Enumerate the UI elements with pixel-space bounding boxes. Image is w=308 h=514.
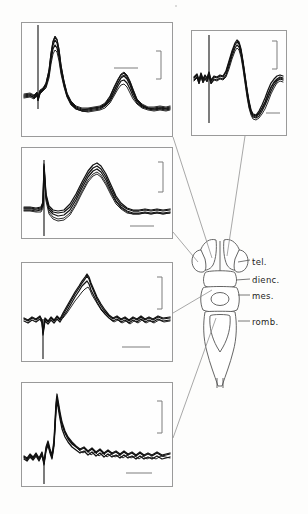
panel-mesencephalon [21, 262, 173, 362]
mesencephalon-ventricle [211, 293, 229, 306]
trace-plot-diencephalon-left [22, 148, 172, 238]
trace-group [24, 394, 170, 465]
region-label-telencephalon: tel. [252, 257, 267, 267]
diencephalon-outline [204, 271, 237, 289]
trace-plot-telencephalon [22, 23, 172, 136]
panel-diencephalon-right [191, 30, 287, 136]
trace-plot-diencephalon-right [192, 31, 286, 135]
figure-canvas: tel. dienc. mes. romb. [0, 0, 308, 514]
trace-plot-mesencephalon [22, 263, 172, 361]
rhombencephalon-outline [204, 311, 237, 386]
vertical-calibration-bar [158, 162, 163, 192]
region-label-diencephalon: dienc. [252, 275, 280, 285]
trace-group [24, 36, 170, 112]
panel-diencephalon-left [21, 147, 173, 239]
vertical-calibration-bar [272, 41, 277, 69]
trace-plot-rhombencephalon [22, 383, 172, 486]
trace-group [24, 274, 170, 335]
region-label-mesencephalon: mes. [252, 291, 274, 301]
vertical-calibration-bar [157, 401, 162, 433]
trace-group [194, 40, 283, 120]
trace-group [24, 163, 170, 221]
vertical-calibration-bar [156, 51, 161, 79]
panel-telencephalon [21, 22, 173, 137]
region-label-rhombencephalon: romb. [252, 317, 278, 327]
vertical-calibration-bar [157, 277, 162, 309]
dorsal-view-brain-schematic [186, 228, 256, 388]
panel-rhombencephalon [21, 382, 173, 487]
scan-artifact-speck [175, 5, 177, 7]
